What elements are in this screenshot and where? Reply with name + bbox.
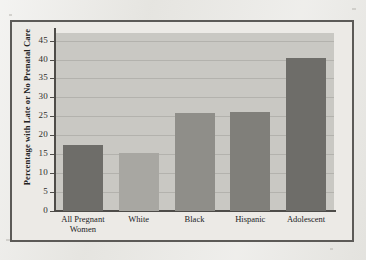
- bar-all-pregnant-women[interactable]: [63, 145, 103, 211]
- bar-adolescent[interactable]: [286, 58, 326, 211]
- bar-black[interactable]: [175, 113, 215, 211]
- bar-white[interactable]: [119, 153, 159, 211]
- y-tick-mark: [50, 211, 55, 212]
- bars-layer: [55, 33, 334, 211]
- bar-hispanic[interactable]: [230, 112, 270, 211]
- y-tick-label: 5: [12, 186, 48, 196]
- x-tick-label-hispanic: Hispanic: [222, 214, 278, 224]
- x-tick-label-white: White: [111, 214, 167, 224]
- scan-speck: [352, 8, 356, 10]
- y-tick-label: 0: [12, 205, 48, 215]
- x-tick-label-all-pregnant-women: All PregnantWomen: [55, 214, 111, 234]
- x-tick-label-adolescent: Adolescent: [278, 214, 334, 224]
- chart-figure: 051015202530354045 Percentage with Late …: [10, 20, 354, 242]
- scan-speck: [9, 14, 12, 16]
- scan-speck: [330, 248, 333, 250]
- y-axis-title: Percentage with Late or No Prenatal Care: [22, 27, 32, 187]
- x-tick-label-black: Black: [167, 214, 223, 224]
